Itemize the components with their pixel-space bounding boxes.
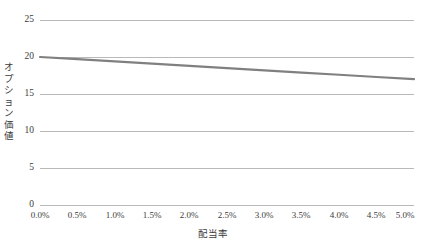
y-axis-title-char: プ: [2, 74, 16, 86]
x-tick-label: 3.5%: [281, 211, 321, 220]
x-tick-label: 0.5%: [57, 211, 97, 220]
series-layer: [40, 20, 414, 205]
x-tick-label: 5.0%: [385, 211, 425, 220]
gridline-0: [40, 205, 414, 206]
x-axis-title: 配当率: [0, 229, 425, 239]
y-tick-label: 5: [4, 163, 34, 173]
x-tick-label: 4.0%: [319, 211, 359, 220]
y-tick-label: 10: [4, 126, 34, 136]
y-axis-title-char: オ: [2, 62, 16, 74]
x-tick-label: 2.0%: [169, 211, 209, 220]
x-tick-label: 1.0%: [95, 211, 135, 220]
chart-title: [0, 0, 425, 2]
series-line-option-value: [40, 57, 414, 79]
x-tick-label: 3.0%: [244, 211, 284, 220]
y-tick-label: 20: [4, 52, 34, 62]
x-tick-label: 1.5%: [132, 211, 172, 220]
line-chart: オ プ シ ョ ン 価 値 25 20 15 10 5 0 0.0% 0.5% …: [0, 0, 425, 247]
plot-area: [40, 20, 414, 205]
x-tick-label: 0.0%: [20, 211, 60, 220]
y-tick-label: 0: [4, 200, 34, 210]
y-axis-title-char: ン: [2, 108, 16, 120]
y-tick-label: 25: [4, 15, 34, 25]
y-tick-label: 15: [4, 89, 34, 99]
x-tick-label: 2.5%: [207, 211, 247, 220]
